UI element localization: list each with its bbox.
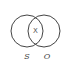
set-s-label: S bbox=[24, 52, 30, 61]
set-s-circle bbox=[11, 15, 43, 47]
set-o-label: O bbox=[44, 52, 51, 61]
venn-diagram: X S O bbox=[0, 0, 71, 64]
intersection-label: X bbox=[33, 27, 38, 35]
